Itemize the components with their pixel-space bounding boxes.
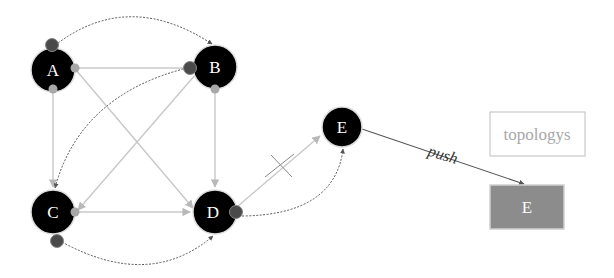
target-box-label: E [522,198,532,217]
topology-diagram: push A B C D E topologys E [0,0,614,278]
node-e-label: E [337,118,347,137]
node-e[interactable]: E [322,107,362,147]
node-b-label: B [209,58,220,77]
dotted-edge-c-d[interactable] [62,236,213,265]
topology-box[interactable]: topologys [490,112,585,156]
push-edge-label: push [425,142,460,168]
node-b-port-left[interactable] [184,62,197,75]
topology-box-label: topologys [503,125,570,144]
edge-a-d[interactable] [76,70,193,208]
node-d-port-right[interactable] [230,206,243,219]
blocked-cross-icon [265,154,294,177]
node-b[interactable]: B [184,45,238,94]
node-d[interactable]: D [193,190,243,234]
node-c-port-bottom[interactable] [51,235,64,248]
node-a-label: A [47,61,60,80]
node-b-port-bottom[interactable] [211,85,220,94]
node-a-port-right[interactable] [71,64,80,73]
node-a-port-top[interactable] [46,39,59,52]
node-c-label: C [47,203,58,222]
node-c-port-right[interactable] [71,208,80,217]
dotted-edge-a-b[interactable] [58,17,212,44]
dotted-edge-b-c[interactable] [55,68,187,188]
target-box-e[interactable]: E [490,185,564,229]
node-a[interactable]: A [31,39,80,94]
node-c[interactable]: C [31,190,80,248]
node-d-label: D [207,203,219,222]
edge-d-e[interactable] [238,136,320,206]
solid-edges [53,68,320,212]
node-a-port-bottom[interactable] [49,85,58,94]
